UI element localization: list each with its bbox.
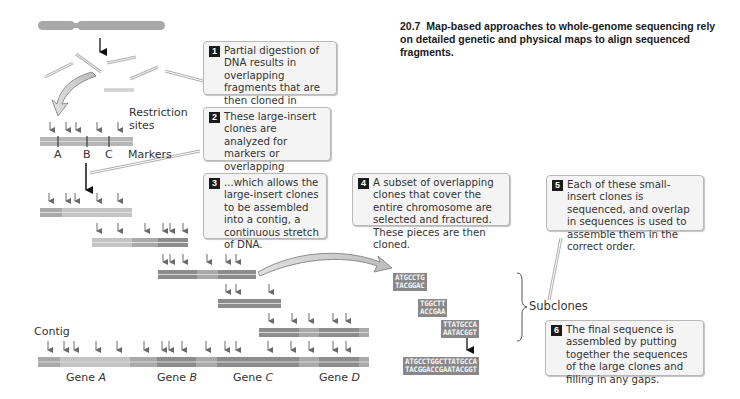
figure-caption-text: Map-based approaches to whole-genome seq… <box>400 20 715 58</box>
gene-c-label: Gene C <box>233 371 273 384</box>
contig-label: Contig <box>34 325 70 338</box>
step-4-callout: 4 A subset of overlapping clones that co… <box>352 173 510 226</box>
restriction-sites-label: Restriction sites <box>129 106 189 132</box>
step-5-badge: 5 <box>552 180 563 191</box>
figure-caption: 20.7 Map-based approaches to whole-genom… <box>400 20 730 59</box>
subclones-label: Subclones <box>529 299 588 313</box>
subclone-sequence-2: TGGCTT ACCGAA <box>418 299 447 317</box>
step-6-callout: 6 The final sequence is assembled by put… <box>545 320 704 376</box>
step-2-badge: 2 <box>209 112 220 123</box>
restriction-arrows-1 <box>50 122 118 130</box>
step-4-badge: 4 <box>358 178 369 189</box>
gene-d-label: Gene D <box>319 371 360 384</box>
final-contig <box>38 357 369 367</box>
marker-c-label: C <box>105 148 113 161</box>
gene-b-label: Gene B <box>157 371 197 384</box>
step-3-callout: 3 ...which allows the large-insert clone… <box>203 173 327 239</box>
dna-fragments <box>45 54 158 90</box>
subclone-sequence-1: ATGCCTG TACGGAC <box>393 273 427 291</box>
figure-number: 20.7 <box>400 20 420 32</box>
markers-label: Markers <box>128 148 172 161</box>
step-6-text: The final sequence is assembled by putti… <box>566 324 687 385</box>
step-6-badge: 6 <box>551 325 562 336</box>
step-5-callout: 5 Each of these small-insert clones is s… <box>546 175 704 231</box>
step-2-callout: 2 These large-insert clones are analyzed… <box>203 107 331 161</box>
marker-a-label: A <box>54 148 62 161</box>
gene-a-label: Gene A <box>66 371 106 384</box>
step-3-badge: 3 <box>209 178 220 189</box>
step-1-badge: 1 <box>209 46 220 57</box>
subclone-sequence-3: TTATGCCA AATACGGT <box>441 320 479 338</box>
step-1-callout: 1 Partial digestion of DNA results in ov… <box>203 41 337 95</box>
final-sequence: ATGCCTGGCTTATGCCA TACGGACCGAATACGGT <box>403 357 479 375</box>
restriction-arrows-final <box>48 341 346 350</box>
large-insert-clone <box>40 136 133 147</box>
marker-b-label: B <box>83 148 91 161</box>
chromosome <box>38 21 165 30</box>
